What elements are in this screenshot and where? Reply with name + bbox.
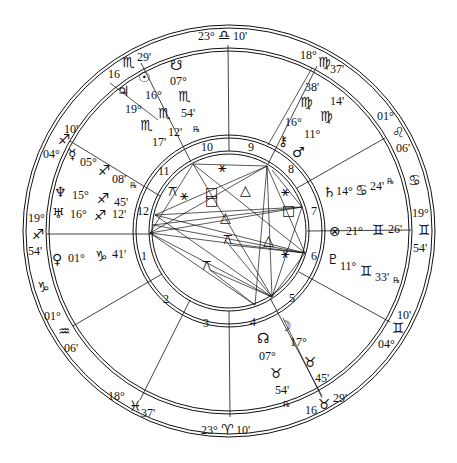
planet-north-node: ☊ 07° ♉ 54' ℞ bbox=[257, 330, 290, 409]
house-1: 1 bbox=[141, 249, 147, 263]
aquarius-icon: ♒ bbox=[58, 323, 71, 339]
sagittarius-icon: ♐ bbox=[94, 207, 107, 223]
mars-minutes: 14' bbox=[330, 94, 344, 108]
taurus-icon: ♉ bbox=[270, 365, 283, 381]
virgo-icon: ♍ bbox=[320, 108, 333, 124]
house-7: 7 bbox=[311, 204, 317, 218]
retrograde-icon: ℞ bbox=[283, 400, 290, 409]
aspect-square-icon: □ bbox=[282, 202, 295, 218]
saturn-minutes: 24' bbox=[370, 179, 384, 193]
virgo-icon: ♍ bbox=[300, 94, 313, 110]
aspect-quincunx-icon: ⚻ bbox=[202, 257, 211, 273]
natal-chart: ⚹ ⚹ ⚹ ⚹ □ □ □ △ △ △ ⚻ ⚻ ⚻ 1 2 3 4 5 6 7 … bbox=[0, 0, 457, 463]
mercury-icon: ☿ bbox=[68, 146, 77, 162]
cusp-12-degree: 04° bbox=[43, 147, 60, 161]
sagittarius-icon: ♐ bbox=[58, 131, 71, 147]
cusp-3-line bbox=[140, 300, 190, 400]
chiron-icon: ⚷ bbox=[278, 133, 288, 149]
part-of-fortune-icon: ⊗ bbox=[329, 223, 341, 239]
mercury-degree: 05° bbox=[80, 155, 97, 169]
jupiter-degree: 19° bbox=[125, 102, 142, 116]
taurus-icon: ♉ bbox=[304, 354, 317, 370]
ic-degree: 23° bbox=[201, 423, 218, 437]
cusp-11-degree: 16 bbox=[108, 67, 120, 81]
gemini-icon: ♊ bbox=[360, 263, 373, 279]
uranus-minutes: 12' bbox=[112, 207, 126, 221]
gemini-icon: ♊ bbox=[392, 320, 405, 336]
planet-pluto: ♇ 11° ♊ 33' ℞ bbox=[327, 251, 400, 285]
cancer-intercept-icon: ♋ bbox=[408, 172, 421, 188]
cusp-8-label: 01° ♌ 06' bbox=[377, 109, 410, 155]
asc-degree: 19° bbox=[28, 211, 45, 225]
cusp-3-degree: 18° bbox=[108, 389, 125, 403]
chiron-degree: 16° bbox=[285, 115, 302, 129]
mars-icon: ♂ bbox=[292, 144, 305, 160]
mercury-minutes: 08' bbox=[112, 172, 126, 186]
sun-icon: ☉ bbox=[138, 69, 151, 85]
pisces-icon: ♓ bbox=[129, 398, 142, 414]
cusp-5-minutes: 29' bbox=[333, 391, 347, 405]
mc-minutes: 10' bbox=[233, 29, 247, 43]
cusp-2-line bbox=[73, 274, 162, 326]
north-node-minutes: 54' bbox=[275, 383, 289, 397]
pluto-minutes: 33' bbox=[375, 270, 389, 284]
house-6: 6 bbox=[311, 249, 317, 263]
planet-moon: ☽ 17° ♉ 45' bbox=[279, 318, 329, 385]
aspect-glyphs: ⚹ ⚹ ⚹ ⚹ □ □ □ △ △ △ ⚻ ⚻ ⚻ bbox=[168, 159, 295, 273]
gemini-icon: ♊ bbox=[418, 222, 431, 238]
uranus-degree: 16° bbox=[70, 207, 87, 221]
house-10: 10 bbox=[201, 140, 213, 154]
aspect-trine-icon: △ bbox=[240, 182, 251, 198]
cusp-8-degree: 01° bbox=[377, 109, 394, 123]
planet-neptune: ♆ 15° ♐ 45' bbox=[54, 184, 128, 209]
cusp-2-minutes: 06' bbox=[64, 341, 78, 355]
dsc-degree: 19° bbox=[412, 206, 429, 220]
cancer-icon: ♋ bbox=[355, 182, 368, 198]
virgo-icon: ♍ bbox=[318, 54, 331, 70]
retrograde-icon: ℞ bbox=[193, 125, 200, 134]
neptune-degree: 15° bbox=[72, 188, 89, 202]
neptune-minutes: 45' bbox=[114, 195, 128, 209]
cusp-3-label: 18° ♓ 37' bbox=[108, 389, 155, 420]
venus-degree: 01° bbox=[68, 251, 85, 265]
libra-icon: ♎ bbox=[218, 27, 231, 43]
aspect-sextile-icon: ⚹ bbox=[281, 245, 290, 261]
house-3: 3 bbox=[203, 316, 209, 330]
part-of-fortune-minutes: 26' bbox=[388, 222, 402, 236]
saturn-icon: ♄ bbox=[323, 184, 336, 200]
cusp-3-minutes: 37' bbox=[141, 406, 155, 420]
uranus-icon: ♅ bbox=[52, 205, 65, 221]
north-node-degree: 07° bbox=[259, 349, 276, 363]
sagittarius-icon: ♐ bbox=[97, 190, 110, 206]
north-node-icon: ☊ bbox=[257, 330, 269, 346]
cusp-asc-label: 19° ♐ 54' bbox=[28, 211, 45, 258]
pluto-degree: 11° bbox=[340, 259, 357, 273]
cusp-11-minutes: 29' bbox=[137, 50, 151, 64]
aspect-quincunx-icon: ⚻ bbox=[223, 231, 232, 247]
cusp-5-degree: 16 bbox=[305, 403, 317, 417]
saturn-degree: 14° bbox=[336, 184, 353, 198]
dsc-minutes: 54' bbox=[413, 241, 427, 255]
chiron-minutes: 38' bbox=[305, 80, 319, 94]
aspect-sextile-icon: ⚹ bbox=[281, 183, 290, 199]
scorpio-icon: ♏ bbox=[158, 105, 171, 121]
cusp-mc-label: 23° ♎ 10' bbox=[198, 27, 247, 43]
retrograde-icon: ℞ bbox=[387, 177, 394, 186]
planet-saturn: ♄ 14° ♋ 24' ℞ bbox=[323, 177, 394, 200]
house-11: 11 bbox=[158, 164, 170, 178]
cusp-9-minutes: 37' bbox=[330, 62, 344, 76]
sun-minutes: 12' bbox=[168, 125, 182, 139]
house-2: 2 bbox=[163, 292, 169, 306]
south-node-minutes: 54' bbox=[181, 106, 195, 120]
taurus-icon: ♉ bbox=[318, 396, 331, 412]
asc-minutes: 54' bbox=[28, 244, 42, 258]
aspect-quincunx-icon: ⚻ bbox=[168, 183, 177, 199]
sun-degree: 16° bbox=[145, 88, 162, 102]
sagittarius-icon: ♐ bbox=[98, 162, 111, 178]
venus-icon: ♀ bbox=[52, 251, 62, 267]
aspect-trine-icon: △ bbox=[263, 232, 274, 248]
pluto-icon: ♇ bbox=[327, 251, 340, 267]
house-4: 4 bbox=[250, 315, 256, 329]
cusp-6-degree: 04° bbox=[378, 337, 395, 351]
planet-mercury: ☿ 05° ♐ 08' ℞ bbox=[68, 146, 137, 190]
